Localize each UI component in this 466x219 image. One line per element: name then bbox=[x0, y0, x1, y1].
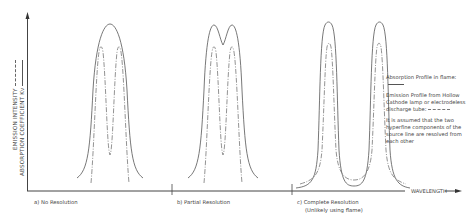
legend-note: It is assumed that the two hyperfine com… bbox=[386, 117, 466, 145]
dashed-line-swatch-icon bbox=[428, 109, 450, 110]
solid-line-swatch-icon bbox=[388, 84, 404, 85]
legend-emission: Emission Profile from Hollow Cathode lam… bbox=[386, 92, 466, 113]
x-axis-arrow-icon bbox=[455, 189, 462, 193]
caption-c-line2: (Unlikely using flame) bbox=[297, 206, 363, 214]
caption-b: b) Partial Resolution bbox=[177, 198, 230, 206]
y-axis-label-emission: EMISSION INTENSITY bbox=[12, 60, 18, 150]
panel-b-emission-profile bbox=[204, 47, 242, 183]
legend-absorption: Absorption Profile in flame: bbox=[386, 74, 466, 88]
y-axis-label-absorption: ABSORPTION COEFFICIENT Kν bbox=[19, 60, 25, 176]
x-axis-label: WAVELENGTH bbox=[411, 188, 447, 194]
y-axis-arrow-icon bbox=[26, 12, 30, 19]
caption-c: c) Complete Resolution (Unlikely using f… bbox=[297, 198, 363, 214]
caption-c-line1: c) Complete Resolution bbox=[297, 198, 363, 206]
legend: Absorption Profile in flame: Emission Pr… bbox=[386, 74, 466, 149]
panel-a-emission-profile bbox=[91, 47, 129, 183]
caption-a: a) No Resolution bbox=[34, 198, 78, 206]
